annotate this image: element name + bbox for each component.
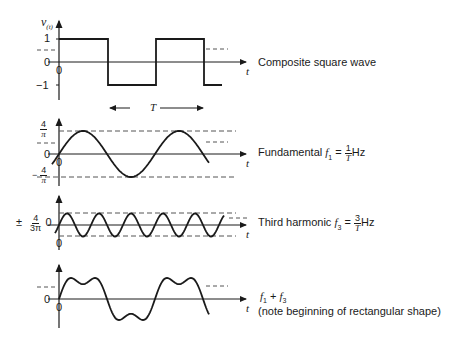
origin-label: 0	[56, 157, 62, 168]
fundamental-caption: Fundamental f1 = 1THz	[258, 144, 365, 163]
tick-pm-4-over-3pi: ± 43π 0	[16, 214, 52, 233]
waveform-diagram	[0, 0, 450, 346]
tick-1: 1	[44, 33, 50, 44]
tick-0: 0	[44, 57, 50, 68]
third-harmonic-panel	[48, 196, 248, 250]
origin-label: 0	[56, 65, 62, 76]
third-harmonic-caption: Third harmonic f3 = 3THz	[258, 214, 374, 233]
sum-panel	[37, 265, 246, 328]
sum-caption-line1: f1 + f3	[260, 290, 286, 306]
tick-0: 0	[44, 294, 50, 305]
x-axis-label: t	[246, 158, 249, 169]
y-axis-label: v(t)	[41, 16, 53, 31]
x-axis-label: t	[246, 229, 249, 240]
fundamental-panel	[37, 119, 246, 186]
tick-4-over-pi: 4π	[40, 120, 47, 139]
origin-label: 0	[56, 302, 62, 313]
period-label: T	[150, 102, 156, 113]
tick-0: 0	[44, 149, 50, 160]
x-axis-label: t	[246, 66, 249, 77]
tick-minus-4-over-pi: − 4π	[32, 166, 47, 185]
x-axis-label: t	[246, 303, 249, 314]
origin-label: 0	[56, 238, 62, 249]
tick-minus-1: −1	[36, 80, 49, 91]
square-wave-caption: Composite square wave	[258, 56, 376, 70]
square-wave-panel	[37, 21, 246, 108]
sum-caption-line2: (note beginning of rectangular shape)	[258, 305, 441, 319]
